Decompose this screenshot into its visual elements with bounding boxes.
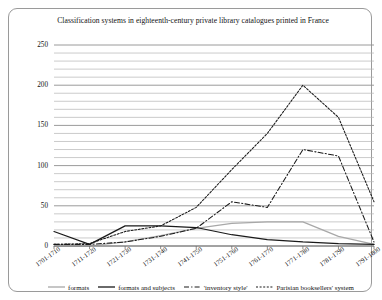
x-tick-label: 1731-1740 — [141, 245, 168, 267]
x-tick-label: 1781-1790 — [318, 245, 345, 267]
legend-label: formats and subjects — [118, 284, 175, 291]
x-tick-label: 1791-1800 — [354, 245, 381, 267]
x-axis-ticks — [54, 45, 374, 246]
x-tick-label: 1741-1750 — [176, 245, 203, 267]
y-tick-label: 50 — [41, 202, 48, 210]
legend-swatch-icon — [184, 284, 201, 290]
y-tick-label: 200 — [37, 81, 48, 89]
y-tick-label: 250 — [37, 41, 48, 49]
legend-swatch-icon — [48, 284, 65, 290]
legend-item[interactable]: formats and subjects — [98, 284, 175, 291]
y-tick-label: 0 — [44, 242, 48, 250]
legend-item[interactable]: Parisian booksellers' system — [256, 284, 353, 291]
legend-swatch-icon — [256, 284, 273, 290]
legend-swatch-icon — [98, 284, 115, 290]
y-tick-label: 150 — [37, 121, 48, 129]
x-tick-label: 1761-1770 — [247, 245, 274, 267]
legend-label: Parisian booksellers' system — [276, 284, 353, 291]
x-tick-label: 1711-1720 — [70, 245, 97, 267]
chart-title: Classification systems in eighteenth-cen… — [43, 16, 343, 27]
x-tick-label: 1721-1730 — [105, 245, 132, 267]
x-tick-label: 1751-1760 — [212, 245, 239, 267]
x-tick-label: 1771-1780 — [283, 245, 310, 267]
legend-label: 'inventory style' — [204, 284, 248, 291]
chart-legend: formatsformats and subjects'inventory st… — [31, 279, 371, 295]
legend-item[interactable]: 'inventory style' — [184, 284, 248, 291]
legend-item[interactable]: formats — [48, 284, 89, 291]
y-axis: 250200150100500 — [9, 39, 51, 253]
plot-area — [54, 45, 374, 246]
chart-container: Classification systems in eighteenth-cen… — [8, 8, 372, 292]
legend-label: formats — [68, 284, 89, 291]
y-tick-label: 100 — [37, 162, 48, 170]
x-axis: 1701-17101711-17201721-17301731-17401741… — [54, 248, 374, 282]
